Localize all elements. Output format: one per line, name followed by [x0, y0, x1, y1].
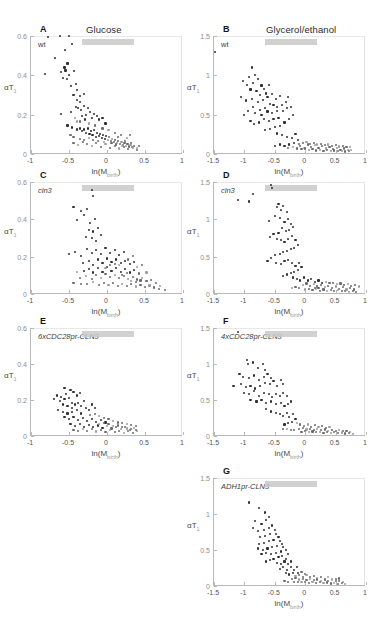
y-tick-label: 0.2: [8, 397, 27, 404]
data-point: [98, 118, 100, 120]
x-tick-label: -0.5: [268, 297, 280, 304]
data-point: [262, 363, 264, 365]
data-point: [118, 277, 120, 279]
data-point: [114, 139, 116, 141]
data-point: [260, 553, 262, 555]
data-point: [249, 88, 251, 90]
data-point: [268, 516, 270, 518]
data-point: [83, 139, 85, 141]
data-point: [319, 290, 321, 292]
data-point: [344, 432, 346, 434]
x-tick-label: -1: [240, 589, 246, 596]
y-axis-title-subscript: 1: [197, 526, 200, 532]
data-point: [114, 274, 116, 276]
data-point: [290, 400, 292, 402]
data-point: [275, 403, 277, 405]
data-point: [305, 141, 307, 143]
data-point: [281, 104, 283, 106]
data-point: [317, 279, 319, 281]
data-point: [291, 137, 293, 139]
data-point: [84, 118, 86, 120]
data-point: [291, 235, 293, 237]
data-point: [87, 107, 89, 109]
data-point: [136, 266, 138, 268]
x-axis-title-subscript: birth: [290, 604, 301, 610]
data-point: [95, 240, 97, 242]
data-point: [63, 66, 65, 68]
data-point: [294, 286, 296, 288]
data-point: [86, 208, 88, 210]
data-point: [288, 143, 290, 145]
data-point: [150, 279, 152, 281]
data-point: [294, 418, 296, 420]
data-point: [311, 148, 313, 150]
data-point: [104, 122, 106, 124]
data-point: [288, 118, 290, 120]
data-point: [76, 409, 78, 411]
data-point: [75, 83, 77, 85]
data-point: [254, 74, 256, 76]
x-tick-label: -1.5: [207, 297, 219, 304]
data-point: [282, 110, 284, 112]
data-point: [104, 143, 106, 145]
data-point: [292, 146, 294, 148]
data-point: [302, 427, 304, 429]
y-axis-title: αT1: [187, 227, 200, 238]
y-axis-title-main: αT: [187, 83, 197, 92]
data-point: [275, 533, 277, 535]
x-tick-label: 1: [180, 157, 184, 164]
data-point: [347, 283, 349, 285]
data-point: [330, 432, 332, 434]
data-point: [100, 429, 102, 431]
data-point: [133, 269, 135, 271]
y-axis-title: αT1: [4, 371, 17, 382]
x-tick: [244, 290, 245, 293]
data-point: [114, 263, 116, 265]
data-point: [91, 418, 93, 420]
plot-frame-right: [181, 36, 182, 153]
y-tick-label: 0.5: [191, 547, 210, 554]
data-point: [153, 286, 155, 288]
data-point: [109, 276, 111, 278]
data-point: [300, 431, 302, 433]
x-tick-label: -0.5: [268, 439, 280, 446]
data-point: [341, 290, 343, 292]
data-point: [130, 142, 132, 144]
data-point: [127, 278, 129, 280]
y-axis-title-subscript: 1: [14, 88, 17, 94]
data-point: [326, 290, 328, 292]
data-point: [321, 425, 323, 427]
data-point: [274, 145, 276, 147]
data-point: [115, 267, 117, 269]
data-point: [285, 101, 287, 103]
x-tick-label: 1: [180, 297, 184, 304]
x-tick: [183, 432, 184, 435]
data-point: [294, 265, 296, 267]
data-point: [287, 563, 289, 565]
data-point: [132, 147, 134, 149]
data-point: [271, 187, 273, 189]
x-axis-title: ln(Mbirth): [275, 307, 304, 318]
x-tick: [366, 582, 367, 585]
data-point: [313, 575, 315, 577]
plot-area-c: [30, 182, 182, 294]
plot-frame-right: [181, 182, 182, 293]
data-point: [124, 140, 126, 142]
data-point: [290, 566, 292, 568]
data-point: [254, 112, 256, 114]
data-point: [82, 428, 84, 430]
data-point: [96, 132, 98, 134]
data-point: [279, 413, 281, 415]
x-tick-label: 0.5: [330, 157, 340, 164]
x-axis-title-close: ): [118, 307, 121, 316]
data-point: [117, 421, 119, 423]
y-tick: [214, 219, 217, 220]
data-point: [115, 143, 117, 145]
data-point: [311, 581, 313, 583]
data-point: [279, 568, 281, 570]
data-point: [299, 279, 301, 281]
y-tick: [214, 182, 217, 183]
x-tick-label: -0.5: [62, 297, 74, 304]
data-point: [316, 428, 318, 430]
y-axis-title: αT1: [187, 371, 200, 382]
